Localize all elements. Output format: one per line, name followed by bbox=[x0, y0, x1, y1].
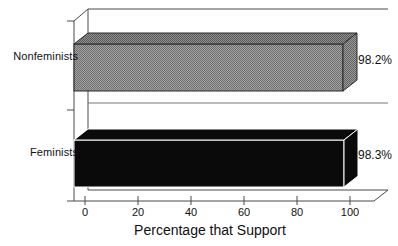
data-label-feminists: 98.3% bbox=[358, 148, 392, 162]
x-tick-label-100: 100 bbox=[335, 206, 365, 218]
x-tick-label-60: 60 bbox=[229, 206, 259, 218]
bar-chart: Nonfeminists Feminists 98.2% 98.3% 0 20 … bbox=[0, 0, 398, 246]
x-tick-label-20: 20 bbox=[123, 206, 153, 218]
x-tick-label-40: 40 bbox=[176, 206, 206, 218]
x-tick-label-0: 0 bbox=[70, 206, 100, 218]
x-tick-label-80: 80 bbox=[282, 206, 312, 218]
category-label-nonfeminists: Nonfeminists bbox=[0, 50, 78, 62]
bar-feminists-front bbox=[74, 140, 344, 187]
bar-nonfeminists-front bbox=[74, 44, 343, 91]
frame-floor-depth bbox=[374, 190, 388, 201]
bar-nonfeminists-top bbox=[74, 33, 357, 44]
category-label-feminists: Feminists bbox=[0, 146, 78, 158]
frame-top-depth bbox=[74, 9, 88, 21]
x-axis-title: Percentage that Support bbox=[60, 222, 360, 238]
data-label-nonfeminists: 98.2% bbox=[358, 53, 392, 67]
bar-feminists-top bbox=[74, 129, 358, 140]
bar-nonfeminists bbox=[74, 33, 357, 91]
bar-feminists bbox=[74, 129, 358, 187]
